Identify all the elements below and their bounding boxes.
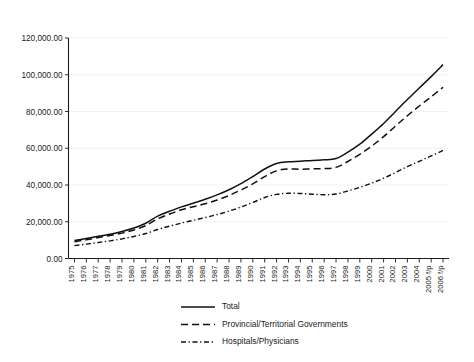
- x-tick-label: 2000: [365, 266, 374, 283]
- x-tick-label: 2004: [412, 266, 421, 283]
- x-tick-label: 1982: [151, 266, 160, 283]
- x-tick-label: 1992: [270, 266, 279, 283]
- x-tick-label: 1983: [163, 266, 172, 283]
- x-tick-label: 1991: [258, 266, 267, 283]
- y-tick-label: 60,000.00: [26, 144, 63, 153]
- x-tick-label: 1990: [246, 266, 255, 283]
- x-tick-label: 1995: [305, 266, 314, 283]
- y-tick-label: 0.00: [47, 255, 63, 264]
- x-tick-label: 1994: [293, 266, 302, 283]
- legend-label: Hospitals/Physicians: [222, 336, 299, 346]
- legend-label: Total: [222, 301, 240, 311]
- x-tick-label: 1985: [186, 266, 195, 283]
- x-tick-label: 1999: [353, 266, 362, 283]
- y-tick-label: 40,000.00: [26, 181, 63, 190]
- x-tick-label: 1977: [91, 266, 100, 283]
- x-tick-label: 2001: [377, 266, 386, 283]
- x-tick-label: 1981: [139, 266, 148, 283]
- x-tick-label: 2003: [400, 266, 409, 283]
- x-tick-label: 1988: [222, 266, 231, 283]
- x-tick-label: 1989: [234, 266, 243, 283]
- x-tick-label: 1986: [198, 266, 207, 283]
- x-tick-label: 1984: [174, 266, 183, 283]
- x-tick-label: 2002: [388, 266, 397, 283]
- x-tick-label: 1976: [79, 266, 88, 283]
- x-tick-label: 1987: [210, 266, 219, 283]
- x-tick-label: 1997: [329, 266, 338, 283]
- line-chart: 0.0020,000.0040,000.0060,000.0080,000.00…: [0, 0, 474, 362]
- x-tick-label: 1975: [67, 266, 76, 283]
- x-tick-label: 1979: [115, 266, 124, 283]
- x-tick-label: 1996: [317, 266, 326, 283]
- x-tick-label: 1978: [103, 266, 112, 283]
- legend-label: Provincial/Territorial Governments: [222, 319, 348, 329]
- y-tick-label: 80,000.00: [26, 108, 63, 117]
- x-tick-label: 1998: [341, 266, 350, 283]
- x-tick-label: 1980: [127, 266, 136, 283]
- y-tick-label: 20,000.00: [26, 218, 63, 227]
- y-tick-label: 100,000.00: [22, 71, 63, 80]
- x-tick-label: 2005 f/p: [424, 266, 433, 293]
- y-tick-label: 120,000.00: [22, 34, 63, 43]
- x-tick-label: 1993: [281, 266, 290, 283]
- x-tick-label: 2006 f/p: [436, 266, 445, 293]
